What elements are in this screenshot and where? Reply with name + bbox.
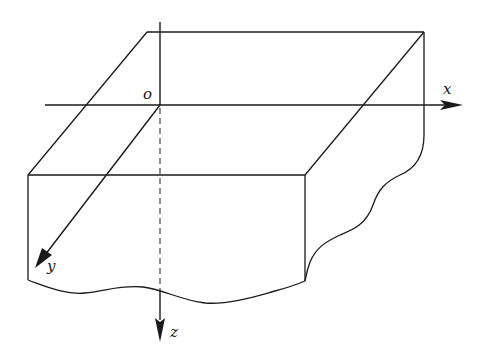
right-break-line [305,32,424,281]
bottom-break-line [28,280,305,303]
z-axis-label: z [169,323,178,341]
solid-block [28,32,424,303]
y-axis-label: y [46,257,56,275]
coordinate-block-diagram: o x y z [0,0,487,357]
axes [35,22,463,342]
z-axis-arrow-icon [155,318,165,342]
top-left-edge [28,32,147,175]
origin-label: o [143,85,152,103]
y-axis-line [45,105,160,255]
top-right-edge [305,32,424,175]
x-axis-label: x [443,80,452,98]
